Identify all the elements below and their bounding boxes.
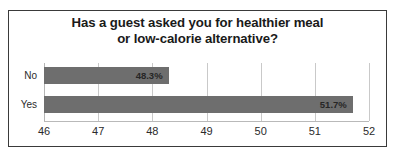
bar-row: Yes51.7% (44, 96, 369, 113)
category-label-yes: Yes (21, 96, 37, 113)
chart-title-line-2: or low-calorie alternative? (9, 31, 386, 47)
data-label-yes: 51.7% (315, 96, 347, 113)
x-tick-label-50: 50 (241, 125, 281, 137)
bar-yes[interactable] (44, 96, 353, 113)
bar-row: No48.3% (44, 67, 369, 84)
x-tick-label-52: 52 (349, 125, 389, 137)
chart-title-line-1: Has a guest asked you for healthier meal (9, 15, 386, 31)
x-tick-label-51: 51 (295, 125, 335, 137)
x-tick-label-48: 48 (132, 125, 172, 137)
x-tick-label-46: 46 (24, 125, 64, 137)
x-tick-label-49: 49 (187, 125, 227, 137)
gridline-52 (369, 63, 370, 121)
plot-area: No48.3%Yes51.7% (44, 63, 369, 121)
x-tick-label-47: 47 (78, 125, 118, 137)
x-axis-line (44, 121, 369, 122)
category-label-no: No (24, 67, 37, 84)
chart-title: Has a guest asked you for healthier meal… (9, 15, 386, 47)
data-label-no: 48.3% (131, 67, 163, 84)
chart-frame: Has a guest asked you for healthier meal… (8, 10, 387, 147)
